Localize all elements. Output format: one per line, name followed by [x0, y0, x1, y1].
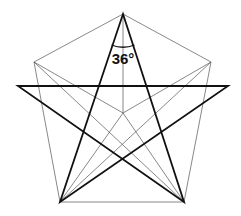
pentagon-outline — [34, 14, 211, 202]
pentagram-diagram: 36° — [0, 0, 241, 216]
center-radials — [34, 14, 211, 202]
angle-label: 36° — [112, 50, 135, 67]
pentagon-diagonals — [34, 62, 211, 202]
